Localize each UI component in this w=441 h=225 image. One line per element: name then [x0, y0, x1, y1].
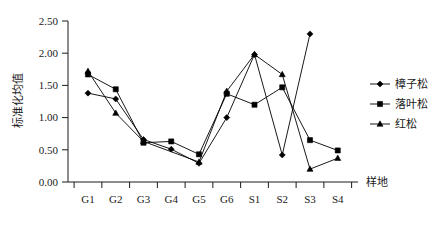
y-axis-title: 标准化均值 — [11, 73, 25, 128]
y-tick-label: 0.00 — [39, 176, 59, 188]
x-axis-ticks — [74, 182, 352, 188]
data-point-square — [196, 152, 201, 157]
x-tick-label: G6 — [220, 193, 234, 205]
x-tick-label: G2 — [109, 193, 122, 205]
x-tick-label: S3 — [304, 193, 316, 205]
y-tick-label: 0.50 — [39, 144, 59, 156]
y-axis-tick-labels: 0.000.501.001.502.002.50 — [39, 15, 59, 188]
x-tick-label: G5 — [192, 193, 206, 205]
x-tick-label: G1 — [81, 193, 94, 205]
y-tick-label: 2.50 — [39, 15, 59, 27]
data-point-diamond — [224, 115, 230, 121]
series-lines-group — [88, 34, 338, 169]
legend-marker-diamond — [377, 81, 383, 87]
x-axis-title: 样地 — [366, 175, 388, 189]
data-point-square — [252, 102, 257, 107]
series-line-diamond — [88, 34, 310, 163]
x-tick-label: S1 — [249, 193, 261, 205]
y-axis-ticks — [62, 21, 68, 182]
legend-label: 红松 — [395, 117, 417, 131]
y-tick-label: 1.00 — [39, 111, 59, 123]
y-tick-label: 1.50 — [39, 79, 59, 91]
data-point-diamond — [307, 31, 313, 37]
data-point-triangle — [279, 71, 285, 76]
data-point-diamond — [279, 152, 285, 158]
legend-label: 樟子松 — [395, 77, 428, 91]
series-line-triangle — [88, 54, 338, 169]
y-tick-label: 2.00 — [39, 47, 59, 59]
chart-figure: 0.000.501.001.502.002.50 G1G2G3G4G5G6S1S… — [0, 0, 441, 225]
data-point-diamond — [85, 90, 91, 96]
data-point-square — [113, 87, 118, 92]
data-point-diamond — [113, 96, 119, 102]
series-markers-group — [85, 31, 341, 171]
legend-marker-square — [377, 101, 382, 106]
data-point-square — [280, 85, 285, 90]
series-line-square — [88, 74, 338, 154]
data-point-triangle — [85, 68, 91, 73]
data-point-square — [169, 139, 174, 144]
data-point-square — [335, 148, 340, 153]
x-tick-label: S4 — [332, 193, 344, 205]
legend-item: 红松 — [370, 117, 417, 131]
legend-label: 落叶松 — [395, 97, 428, 111]
data-point-square — [307, 138, 312, 143]
x-tick-label: G3 — [137, 193, 151, 205]
chart-legend: 樟子松落叶松红松 — [370, 77, 428, 131]
x-tick-label: G4 — [165, 193, 179, 205]
x-tick-label: S2 — [276, 193, 288, 205]
x-axis-tick-labels: G1G2G3G4G5G6S1S2S3S4 — [81, 193, 344, 205]
data-point-triangle — [335, 155, 341, 160]
legend-item: 落叶松 — [370, 97, 428, 111]
line-chart: 0.000.501.001.502.002.50 G1G2G3G4G5G6S1S… — [0, 0, 441, 225]
legend-item: 樟子松 — [370, 77, 428, 91]
data-point-triangle — [113, 110, 119, 115]
